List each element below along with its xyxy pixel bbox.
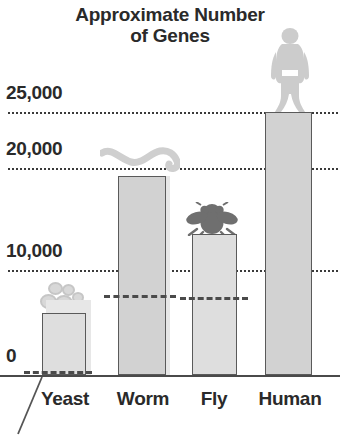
value-marker-yeast [24, 371, 92, 374]
xlabel-human: Human [244, 388, 336, 410]
value-marker-worm [104, 295, 176, 298]
bar-fly [192, 234, 237, 375]
ytick-label-20000: 20,000 [6, 138, 62, 160]
bar-human [265, 112, 312, 375]
xlabel-fly: Fly [180, 388, 248, 410]
bar-yeast [42, 313, 86, 375]
gene-count-bar-chart: Approximate Number of Genes 25,000 20,00… [0, 0, 340, 439]
ytick-label-25000: 25,000 [6, 82, 62, 104]
ytick-label-0: 0 [6, 345, 16, 367]
plot-area: 25,000 20,000 10,000 0 [0, 0, 340, 439]
human-figure-icon [266, 28, 314, 113]
fly-icon [183, 202, 241, 236]
axis-baseline [0, 375, 340, 377]
xlabel-yeast: Yeast [26, 388, 104, 410]
ytick-label-10000: 10,000 [6, 240, 62, 262]
bar-worm [118, 176, 166, 375]
worm-icon [100, 145, 180, 177]
value-marker-fly [180, 297, 248, 300]
xlabel-worm: Worm [104, 388, 182, 410]
